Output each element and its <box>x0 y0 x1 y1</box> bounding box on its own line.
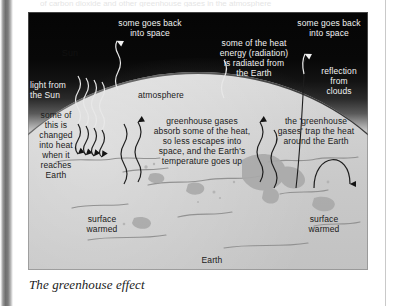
label-some-goes-back-right: some goes backinto space <box>286 18 368 38</box>
cropped-body-text: of carbon dioxide and other greenhouse g… <box>40 0 370 7</box>
figure-caption: The greenhouse effect <box>29 277 359 293</box>
atmosphere-label: atmosphere <box>128 90 194 100</box>
sun-label: Sun <box>40 48 100 58</box>
label-gases-trap-heat: the 'greenhousegases' trap the heataroun… <box>268 116 364 146</box>
page-right-rule <box>385 0 386 306</box>
label-surface-warmed-left: surfacewarmed <box>74 214 130 234</box>
label-reflection-from-clouds: reflectionfromclouds <box>310 66 368 96</box>
label-greenhouse-gases-absorb: greenhouse gasesabsorb some of the heat,… <box>144 116 260 166</box>
greenhouse-effect-diagram: Sun some goes backinto space some of the… <box>28 12 368 270</box>
scanned-page: of carbon dioxide and other greenhouse g… <box>0 0 396 306</box>
label-light-from-sun: light fromthe Sun <box>30 80 92 100</box>
label-some-goes-back-left: some goes backinto space <box>94 18 206 38</box>
book-spine-shadow <box>0 0 13 306</box>
label-surface-warmed-right: surfacewarmed <box>296 214 352 234</box>
earth-label: Earth <box>190 255 234 265</box>
label-heat-radiated: some of the heatenergy (radiation)is rad… <box>196 38 312 78</box>
label-changed-into-heat: some ofthis ischangedinto heatwhen itrea… <box>30 110 82 180</box>
